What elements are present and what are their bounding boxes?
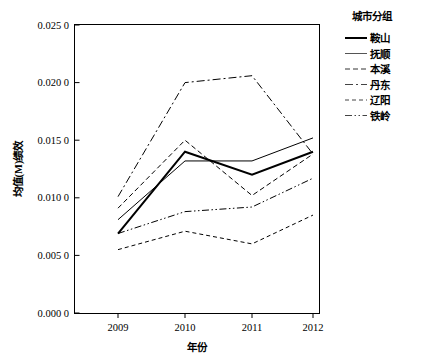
x-axis-title: 年份: [187, 341, 208, 353]
legend-label-本溪[interactable]: 本溪: [370, 63, 391, 75]
legend-items: 鞍山抚顺本溪丹东辽阳铁岭: [345, 32, 391, 122]
plot-area-frame: [75, 25, 320, 314]
x-tick-label: 2011: [242, 322, 263, 333]
series-line-铁岭: [118, 178, 313, 233]
x-axis-tick-labels: 2009 2010 2011 2012: [108, 322, 324, 333]
y-axis-ticks: [75, 25, 80, 313]
y-tick-label: 0.015 0: [38, 135, 70, 146]
x-tick-label: 2010: [175, 322, 196, 333]
legend-title: 城市分组: [352, 10, 393, 22]
y-axis-title: 均值(M)绩效: [12, 140, 25, 198]
y-tick-label: 0.005 0: [38, 250, 70, 261]
y-tick-label: 0.025 0: [38, 20, 70, 31]
series-line-辽阳: [118, 215, 313, 250]
series-line-鞍山: [118, 152, 313, 234]
legend-label-辽阳[interactable]: 辽阳: [370, 95, 390, 106]
legend-label-铁岭[interactable]: 铁岭: [370, 110, 391, 122]
legend-label-鞍山[interactable]: 鞍山: [370, 32, 390, 44]
line-chart: 0.025 0 0.020 0 0.015 0 0.010 0 0.005 0 …: [0, 0, 427, 361]
y-tick-label: 0.020 0: [38, 77, 70, 88]
x-tick-label: 2012: [303, 322, 324, 333]
data-series-group: [118, 76, 313, 250]
chart-canvas: 0.025 0 0.020 0 0.015 0 0.010 0 0.005 0 …: [0, 0, 427, 361]
y-axis-tick-labels: 0.025 0 0.020 0 0.015 0 0.010 0 0.005 0 …: [38, 20, 70, 319]
y-tick-label: 0.000 0: [38, 308, 70, 319]
x-tick-label: 2009: [108, 322, 129, 333]
legend-label-丹东[interactable]: 丹东: [370, 79, 391, 91]
legend-label-抚顺[interactable]: 抚顺: [370, 48, 391, 60]
y-tick-label: 0.010 0: [38, 192, 70, 203]
legend: 城市分组 鞍山抚顺本溪丹东辽阳铁岭: [345, 10, 393, 122]
